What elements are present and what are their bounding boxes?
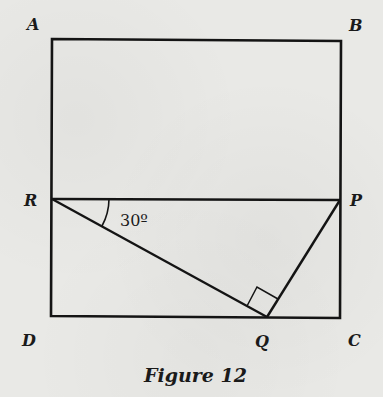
angle-arc-r [102, 199, 109, 226]
vertex-label-q: Q [255, 334, 269, 350]
segment-rp [52, 199, 340, 200]
vertex-label-p: P [350, 193, 362, 209]
vertex-label-d: D [22, 333, 36, 349]
vertex-label-c: C [348, 333, 361, 349]
geometry-diagram [0, 0, 383, 397]
rectangle-abcd [51, 39, 341, 318]
angle-label-30: 30º [120, 213, 148, 229]
vertex-label-b: B [349, 18, 363, 34]
segment-pq [267, 200, 340, 317]
right-angle-marker-q [247, 287, 278, 306]
segment-rq [52, 199, 267, 317]
vertex-label-a: A [27, 17, 39, 33]
figure-caption: Figure 12 [0, 366, 383, 385]
vertex-label-r: R [24, 193, 37, 209]
